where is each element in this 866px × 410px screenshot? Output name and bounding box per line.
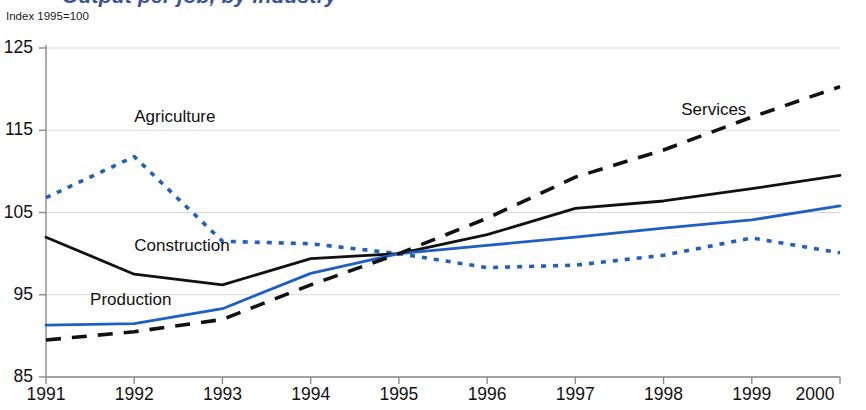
y-axis-label-95: 95 <box>0 284 33 305</box>
x-axis-label-1992: 1992 <box>99 384 169 405</box>
x-axis-label-1996: 1996 <box>452 384 522 405</box>
y-axis-label-125: 125 <box>0 37 33 58</box>
line-chart-plot <box>0 0 866 410</box>
x-axis-label-1998: 1998 <box>629 384 699 405</box>
x-axis-label-2000: 2000 <box>780 384 850 405</box>
series-label-agriculture: Agriculture <box>134 107 215 127</box>
series-label-production: Production <box>90 290 171 310</box>
x-axis-label-1991: 1991 <box>11 384 81 405</box>
series-label-construction: Construction <box>134 236 229 256</box>
x-axis-label-1993: 1993 <box>187 384 257 405</box>
y-axis-label-115: 115 <box>0 119 33 140</box>
x-axis-label-1999: 1999 <box>717 384 787 405</box>
series-line-construction <box>46 175 840 284</box>
chart-root: Output per job, by industry Index 1995=1… <box>0 0 866 410</box>
series-label-services: Services <box>681 100 746 120</box>
x-axis-label-1994: 1994 <box>276 384 346 405</box>
y-axis-label-105: 105 <box>0 202 33 223</box>
x-axis-label-1995: 1995 <box>364 384 434 405</box>
x-axis-label-1997: 1997 <box>540 384 610 405</box>
